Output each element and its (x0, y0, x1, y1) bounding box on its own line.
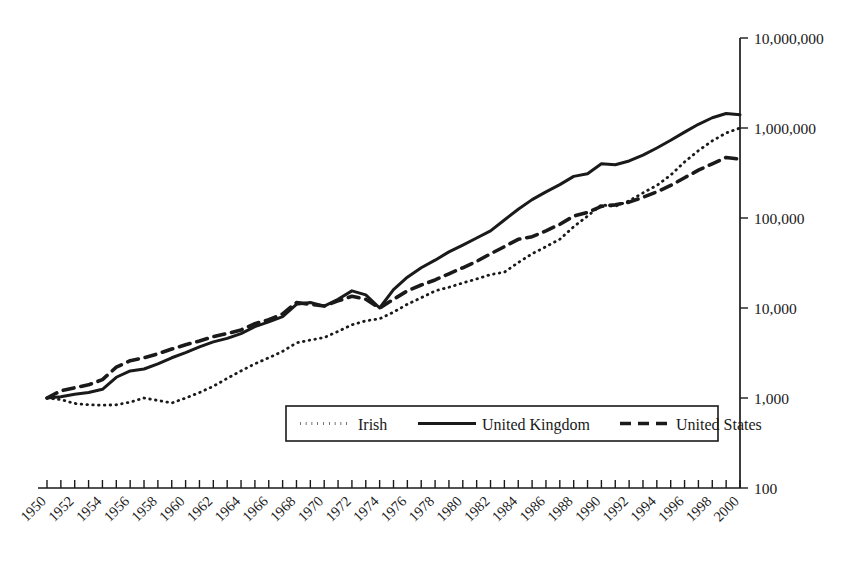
x-tick-label: 1960 (156, 493, 188, 525)
x-tick-label: 1992 (599, 493, 631, 525)
series-lines (47, 113, 740, 405)
legend-label-united-kingdom: United Kingdom (482, 416, 591, 434)
x-tick-label: 1958 (128, 493, 160, 525)
y-tick-label: 1,000,000 (754, 120, 816, 137)
x-tick-label: 1950 (17, 493, 49, 525)
x-tick-label: 1968 (267, 493, 299, 525)
x-tick-label: 1952 (45, 493, 77, 525)
x-tick-label: 1998 (683, 493, 715, 525)
x-tick-label: 1976 (378, 493, 410, 525)
x-tick-label: 2000 (710, 493, 742, 525)
x-tick-label: 1970 (295, 493, 327, 525)
x-tick-label: 1986 (516, 493, 548, 525)
x-tick-label: 1984 (489, 492, 521, 524)
y-tick-label: 100,000 (754, 210, 805, 227)
y-tick-label: 100 (754, 480, 778, 497)
x-tick-label: 1988 (544, 493, 576, 525)
x-tick-label: 1994 (627, 492, 659, 524)
x-tick-label: 1972 (322, 493, 354, 525)
y-tick-label: 10,000 (754, 300, 797, 317)
x-tick-label: 1956 (100, 493, 132, 525)
x-tick-label: 1982 (461, 493, 493, 525)
x-tick-label: 1966 (239, 493, 271, 525)
series-line-irish (47, 128, 740, 405)
line-chart-figure: 1001,00010,000100,0001,000,00010,000,000… (0, 0, 864, 575)
chart-canvas: 1001,00010,000100,0001,000,00010,000,000… (0, 0, 864, 575)
legend-label-irish: Irish (358, 416, 387, 433)
x-tick-label: 1990 (572, 493, 604, 525)
x-tick-label: 1964 (211, 492, 243, 524)
x-tick-label: 1978 (405, 493, 437, 525)
y-tick-label: 1,000 (754, 390, 789, 407)
y-tick-label: 10,000,000 (754, 30, 824, 47)
series-line-united-states (47, 158, 740, 398)
x-tick-label: 1980 (433, 493, 465, 525)
x-tick-label: 1996 (655, 493, 687, 525)
x-tick-label: 1954 (73, 492, 105, 524)
legend-label-united-states: United States (676, 416, 762, 433)
x-tick-label: 1962 (184, 493, 216, 525)
chart-legend: IrishUnited KingdomUnited States (286, 406, 762, 441)
x-axis: 1950195219541956195819601962196419661968… (17, 480, 742, 525)
x-tick-label: 1974 (350, 492, 382, 524)
